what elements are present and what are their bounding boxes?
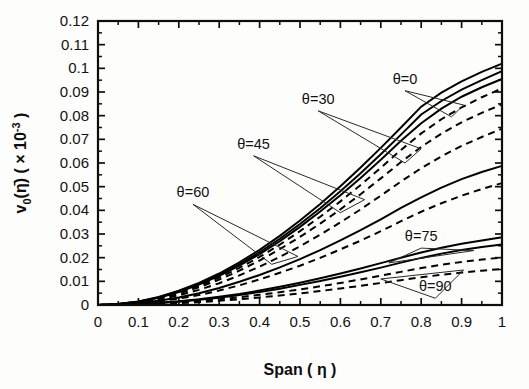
leader-line-2-0 xyxy=(254,156,341,213)
leader-bar-0 xyxy=(452,105,464,117)
x-tick-label-9: 0.9 xyxy=(451,313,472,330)
x-tick-label-4: 0.4 xyxy=(249,313,270,330)
annotation-1: θ=30 xyxy=(302,91,335,107)
curve--75-a- xyxy=(98,237,502,305)
axes-frame xyxy=(98,21,502,305)
annotation-0: θ=0 xyxy=(393,71,418,87)
curve--30-a- xyxy=(98,79,502,305)
leader-line-2-1 xyxy=(254,156,365,200)
leader-bar-1 xyxy=(405,149,421,163)
y-axis-scale: × 10 xyxy=(12,132,29,168)
axis-ticks xyxy=(98,21,502,305)
x-tick-label-3: 0.3 xyxy=(209,313,230,330)
y-tick-label-5: 0.05 xyxy=(60,178,89,195)
theta-annotations: θ=0θ=30θ=45θ=60θ=75θ=90 xyxy=(177,71,474,299)
annotation-2: θ=45 xyxy=(237,136,270,152)
y-axis-title: v0(η̄) ( × 10-3 ) xyxy=(10,113,33,214)
y-tick-label-11: 0.11 xyxy=(61,36,89,53)
y-tick-label-1: 0.01 xyxy=(60,272,89,289)
leader-bar-3 xyxy=(272,256,298,264)
plot-frame xyxy=(98,21,502,305)
x-tick-label-6: 0.6 xyxy=(330,313,351,330)
annotation-3: θ=60 xyxy=(177,184,210,200)
leader-line-3-1 xyxy=(193,204,298,256)
y-tick-label-10: 0.1 xyxy=(68,59,89,76)
figure-container: 00.10.20.30.40.50.60.70.80.91 00.010.020… xyxy=(0,0,529,389)
y-tick-label-0: 0 xyxy=(81,296,89,313)
y-tick-label-6: 0.06 xyxy=(60,154,89,171)
y-tick-label-9: 0.09 xyxy=(60,83,89,100)
x-tick-label-1: 0.1 xyxy=(128,313,149,330)
x-tick-label-10: 1 xyxy=(498,313,506,330)
y-tick-label-3: 0.03 xyxy=(60,225,89,242)
y-tick-label-7: 0.07 xyxy=(60,130,89,147)
x-tick-labels: 00.10.20.30.40.50.60.70.80.91 xyxy=(94,313,506,330)
y-tick-label-4: 0.04 xyxy=(60,201,89,218)
x-tick-label-5: 0.5 xyxy=(290,313,311,330)
leader-line-0-0 xyxy=(405,91,451,117)
x-axis-title: Span ( η ) xyxy=(264,361,337,378)
annotation-4: θ=75 xyxy=(405,228,438,244)
y-tick-label-12: 0.12 xyxy=(60,12,89,29)
y-tick-labels: 00.010.020.030.040.050.060.070.080.090.1… xyxy=(60,12,89,313)
x-tick-label-0: 0 xyxy=(94,313,102,330)
x-tick-label-2: 0.2 xyxy=(168,313,189,330)
chart-canvas: 00.10.20.30.40.50.60.70.80.91 00.010.020… xyxy=(0,0,529,389)
x-tick-label-7: 0.7 xyxy=(370,313,391,330)
x-tick-label-8: 0.8 xyxy=(411,313,432,330)
y-axis-exponent: -3 xyxy=(10,122,22,132)
leader-line-3-0 xyxy=(193,204,272,264)
curve--45-a- xyxy=(98,104,502,305)
y-axis-symbol: v xyxy=(12,204,29,213)
svg-text:v0(η̄) ( × 10-3 ): v0(η̄) ( × 10-3 ) xyxy=(10,113,33,214)
y-tick-label-8: 0.08 xyxy=(60,107,89,124)
y-tick-label-2: 0.02 xyxy=(60,249,89,266)
